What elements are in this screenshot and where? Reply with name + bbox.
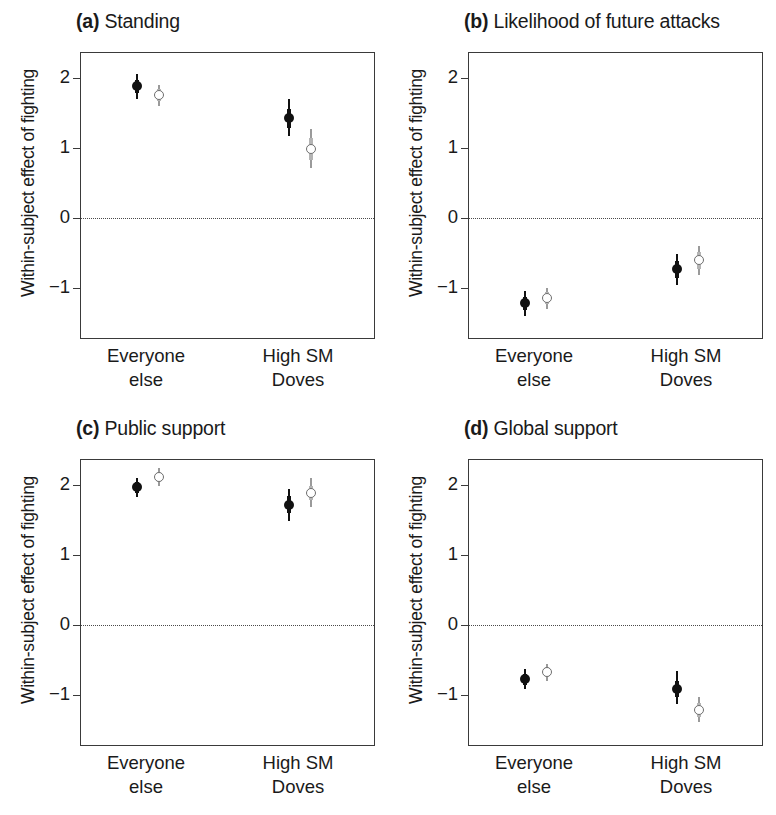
point-marker-open (154, 472, 164, 482)
y-tick-label: 1 (28, 545, 70, 564)
x-tick-label: High SMDoves (611, 751, 761, 799)
panel-title-text: Global support (494, 417, 618, 439)
y-tick-label: 0 (28, 615, 70, 634)
x-tick-label-line2: else (459, 775, 609, 799)
y-tick-mark (461, 218, 469, 219)
panel-c: (c) Public supportWithin-subject effect … (0, 407, 388, 814)
y-tick-label: 2 (28, 475, 70, 494)
point-marker-filled (672, 684, 682, 694)
y-tick-mark (461, 625, 469, 626)
figure-root: (a) StandingWithin-subject effect of fig… (0, 0, 776, 815)
y-tick-mark (73, 625, 81, 626)
x-tick-label-line1: Everyone (71, 751, 221, 775)
x-tick-label-line2: else (71, 368, 221, 392)
point-marker-filled (672, 264, 682, 274)
point-marker-open (694, 705, 704, 715)
x-tick-label: Everyoneelse (71, 751, 221, 799)
x-tick-label-line1: Everyone (71, 344, 221, 368)
y-tick-label: −1 (416, 685, 458, 704)
y-tick-mark (73, 695, 81, 696)
y-tick-mark (73, 288, 81, 289)
y-tick-mark (461, 288, 469, 289)
panel-title-text: Likelihood of future attacks (494, 10, 720, 32)
x-tick-label: High SMDoves (611, 344, 761, 392)
y-tick-label: 1 (416, 138, 458, 157)
x-tick-label-line2: Doves (223, 368, 373, 392)
panel-a: (a) StandingWithin-subject effect of fig… (0, 0, 388, 407)
x-tick-label-line1: High SM (611, 344, 761, 368)
y-tick-label: 0 (416, 208, 458, 227)
y-tick-mark (73, 148, 81, 149)
x-tick-label-line2: else (459, 368, 609, 392)
x-tick-label-line1: High SM (611, 751, 761, 775)
x-tick-label-line2: else (71, 775, 221, 799)
point-marker-filled (520, 674, 530, 684)
y-tick-label: 2 (416, 475, 458, 494)
point-marker-open (306, 488, 316, 498)
zero-reference-line (469, 625, 762, 626)
point-marker-filled (132, 81, 142, 91)
panel-tag: (a) (76, 10, 99, 32)
point-marker-filled (520, 298, 530, 308)
plot-area (468, 52, 763, 339)
point-marker-filled (284, 500, 294, 510)
x-tick-label: High SMDoves (223, 344, 373, 392)
y-tick-mark (73, 218, 81, 219)
point-marker-filled (132, 482, 142, 492)
zero-reference-line (81, 625, 374, 626)
point-marker-open (306, 144, 316, 154)
x-tick-label-line2: Doves (223, 775, 373, 799)
y-tick-label: 0 (28, 208, 70, 227)
point-marker-open (542, 293, 552, 303)
y-tick-label: 1 (416, 545, 458, 564)
plot-area (468, 459, 763, 746)
panel-title: (b) Likelihood of future attacks (464, 8, 720, 34)
y-tick-label: 0 (416, 615, 458, 634)
y-tick-label: 1 (28, 138, 70, 157)
y-tick-mark (461, 148, 469, 149)
panel-d: (d) Global supportWithin-subject effect … (388, 407, 776, 814)
panel-title-text: Public support (104, 417, 225, 439)
point-marker-open (542, 667, 552, 677)
x-tick-label-line1: Everyone (459, 344, 609, 368)
x-tick-label: Everyoneelse (71, 344, 221, 392)
y-tick-label: −1 (28, 685, 70, 704)
y-tick-label: −1 (416, 278, 458, 297)
y-tick-label: −1 (28, 278, 70, 297)
panel-title: (d) Global support (464, 415, 618, 441)
point-marker-open (154, 90, 164, 100)
point-marker-filled (284, 113, 294, 123)
y-tick-mark (73, 555, 81, 556)
y-tick-label: 2 (416, 68, 458, 87)
y-tick-mark (73, 485, 81, 486)
panel-tag: (d) (464, 417, 488, 439)
y-tick-mark (73, 78, 81, 79)
x-tick-label-line1: High SM (223, 344, 373, 368)
panel-tag: (b) (464, 10, 488, 32)
plot-area (80, 52, 375, 339)
y-tick-mark (461, 485, 469, 486)
panel-title: (c) Public support (76, 415, 225, 441)
y-tick-mark (461, 555, 469, 556)
panel-b: (b) Likelihood of future attacksWithin-s… (388, 0, 776, 407)
x-tick-label: Everyoneelse (459, 344, 609, 392)
x-tick-label: High SMDoves (223, 751, 373, 799)
point-marker-open (694, 255, 704, 265)
panel-tag: (c) (76, 417, 99, 439)
zero-reference-line (469, 218, 762, 219)
panel-title-text: Standing (104, 10, 179, 32)
x-tick-label-line2: Doves (611, 775, 761, 799)
y-tick-mark (461, 695, 469, 696)
x-tick-label-line2: Doves (611, 368, 761, 392)
x-tick-label: Everyoneelse (459, 751, 609, 799)
x-tick-label-line1: High SM (223, 751, 373, 775)
panel-title: (a) Standing (76, 8, 180, 34)
zero-reference-line (81, 218, 374, 219)
y-tick-mark (461, 78, 469, 79)
plot-area (80, 459, 375, 746)
y-tick-label: 2 (28, 68, 70, 87)
x-tick-label-line1: Everyone (459, 751, 609, 775)
